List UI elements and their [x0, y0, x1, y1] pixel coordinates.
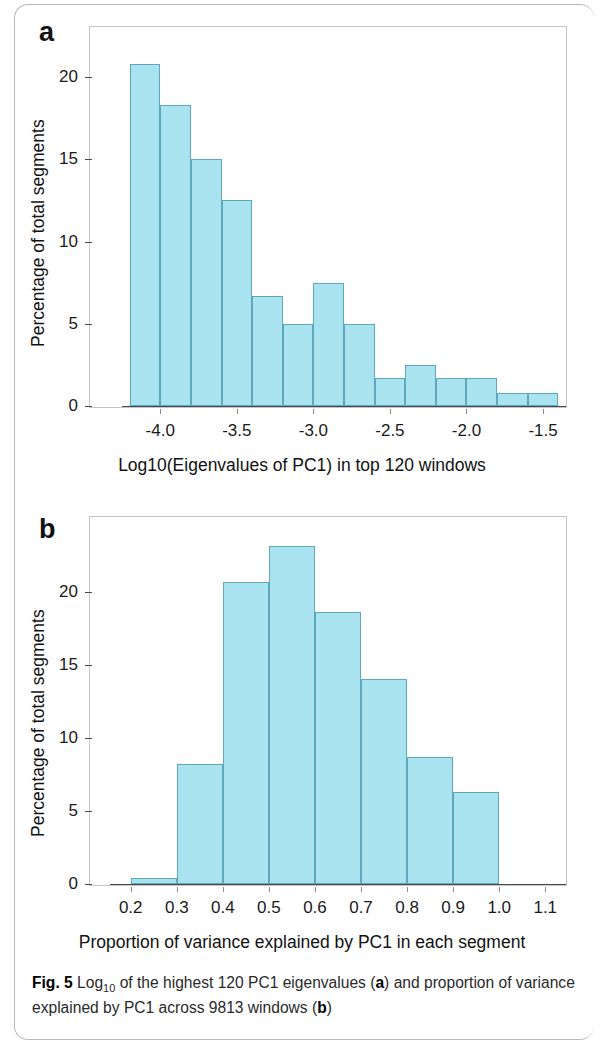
- x-axis-tick-label: 1.0: [487, 898, 511, 918]
- histogram-bar: [269, 546, 315, 884]
- x-axis-tick-mark: [545, 887, 546, 892]
- x-axis-tick-label: 0.8: [395, 898, 419, 918]
- caption-text-1: Log: [73, 974, 103, 991]
- y-axis-tick-mark: [85, 324, 92, 325]
- y-axis-tick-mark: [85, 665, 92, 666]
- x-axis-tick-mark: [315, 887, 316, 892]
- caption-text-2: of the highest 120 PC1 eigenvalues (: [115, 974, 375, 991]
- y-axis-tick-mark: [85, 738, 92, 739]
- x-axis-tick-mark: [543, 409, 544, 414]
- figure-caption: Fig. 5 Log10 of the highest 120 PC1 eige…: [32, 972, 577, 1019]
- x-axis-tick-mark: [131, 887, 132, 892]
- y-axis-tick-label: 0: [38, 396, 78, 416]
- histogram-bar: [313, 283, 344, 406]
- x-axis-tick-label: -3.0: [299, 421, 328, 441]
- x-axis-tick-label: 0.5: [257, 898, 281, 918]
- caption-ref-a: a: [375, 974, 384, 991]
- panel-a-bars: [122, 36, 566, 406]
- x-axis-tick-label: -2.5: [375, 421, 404, 441]
- panel-b-y-axis-title: Percentage of total segments: [28, 609, 49, 837]
- x-axis-tick-mark: [453, 887, 454, 892]
- histogram-bar: [361, 679, 407, 884]
- histogram-bar: [407, 757, 453, 884]
- y-axis-tick-label: 0: [38, 874, 78, 894]
- histogram-bar: [252, 296, 283, 406]
- panel-b-x-axis-title: Proportion of variance explained by PC1 …: [0, 932, 604, 953]
- figure-panel-b: b 05101520 0.20.30.40.50.60.70.80.91.01.…: [0, 492, 604, 962]
- figure-panel-a: a 05101520 -4.0-3.5-3.0-2.5-2.0-1.5 Log1…: [0, 0, 604, 487]
- y-axis-tick-mark: [85, 811, 92, 812]
- histogram-bar: [405, 365, 436, 406]
- y-axis-tick-mark: [85, 159, 92, 160]
- panel-b-plot-area: [110, 526, 565, 884]
- histogram-bar: [283, 324, 314, 406]
- x-axis-tick-label: 0.2: [119, 898, 143, 918]
- x-axis-tick-mark: [361, 887, 362, 892]
- histogram-bar: [191, 159, 222, 406]
- x-axis-tick-label: -4.0: [146, 421, 175, 441]
- histogram-bar: [315, 612, 361, 884]
- panel-a-y-axis-title: Percentage of total segments: [28, 119, 49, 347]
- panel-a-x-axis-line: [122, 406, 566, 407]
- x-axis-tick-mark: [160, 409, 161, 414]
- x-axis-tick-label: -1.5: [528, 421, 557, 441]
- x-axis-tick-mark: [269, 887, 270, 892]
- x-axis-tick-label: -3.5: [222, 421, 251, 441]
- histogram-bar: [497, 393, 528, 406]
- x-axis-tick-mark: [390, 409, 391, 414]
- x-axis-tick-mark: [466, 409, 467, 414]
- panel-a-letter: a: [39, 17, 54, 48]
- x-axis-tick-label: -2.0: [452, 421, 481, 441]
- x-axis-tick-label: 0.9: [441, 898, 465, 918]
- caption-figure-number: Fig. 5: [32, 974, 73, 991]
- histogram-bar: [466, 378, 497, 406]
- x-axis-tick-mark: [223, 887, 224, 892]
- panel-a-plot-area: [122, 36, 566, 406]
- histogram-bar: [375, 378, 406, 406]
- x-axis-tick-label: 0.7: [349, 898, 373, 918]
- histogram-bar: [177, 764, 223, 884]
- x-axis-tick-mark: [237, 409, 238, 414]
- y-axis-tick-label: 20: [38, 67, 78, 87]
- histogram-bar: [453, 792, 499, 884]
- x-axis-tick-mark: [407, 887, 408, 892]
- x-axis-tick-mark: [177, 887, 178, 892]
- panel-a-x-axis-title: Log10(Eigenvalues of PC1) in top 120 win…: [0, 455, 604, 476]
- x-axis-tick-label: 0.4: [211, 898, 235, 918]
- panel-b-letter: b: [39, 514, 56, 545]
- histogram-bar: [436, 378, 467, 406]
- histogram-bar: [223, 582, 269, 884]
- panel-b-x-axis-line: [110, 884, 566, 885]
- x-axis-tick-label: 1.1: [533, 898, 557, 918]
- histogram-bar: [160, 105, 191, 406]
- histogram-bar: [344, 324, 375, 406]
- y-axis-tick-mark: [85, 406, 92, 407]
- x-axis-tick-label: 0.6: [303, 898, 327, 918]
- y-axis-tick-mark: [85, 884, 92, 885]
- x-axis-tick-label: 0.3: [165, 898, 189, 918]
- histogram-bar: [130, 64, 161, 406]
- y-axis-tick-mark: [85, 592, 92, 593]
- y-axis-tick-mark: [85, 77, 92, 78]
- x-axis-tick-mark: [313, 409, 314, 414]
- caption-ref-b: b: [317, 999, 327, 1016]
- histogram-bar: [222, 200, 253, 406]
- panel-b-bars: [110, 526, 565, 884]
- histogram-bar: [528, 393, 559, 406]
- x-axis-tick-mark: [499, 887, 500, 892]
- y-axis-tick-mark: [85, 242, 92, 243]
- caption-subscript: 10: [103, 982, 115, 994]
- caption-text-4: ): [327, 999, 332, 1016]
- y-axis-tick-label: 20: [38, 582, 78, 602]
